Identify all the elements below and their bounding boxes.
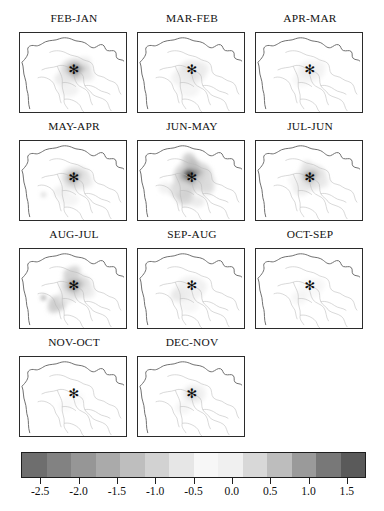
- administrative-boundaries: [274, 51, 357, 112]
- map-panel-aug-jul: AUG-JUL✻: [19, 228, 129, 329]
- colorbar-gradient: [21, 452, 366, 478]
- station-star-marker: ✻: [69, 171, 80, 184]
- colorbar-tick-label-5: 0.0: [225, 485, 240, 498]
- panel-title-sep-aug: SEP-AUG: [137, 228, 247, 241]
- colorbar: -2.5-2.0-1.5-1.0-0.50.00.51.01.5: [21, 452, 366, 508]
- colorbar-band-4: [120, 453, 145, 477]
- colorbar-band-1: [47, 453, 72, 477]
- colorbar-tick-label-3: -1.0: [146, 485, 164, 498]
- colorbar-tick-label-7: 1.0: [301, 485, 316, 498]
- administrative-boundaries: [156, 375, 239, 436]
- map-area-may-apr: ✻: [19, 140, 127, 221]
- map-area-feb-jan: ✻: [19, 32, 127, 113]
- map-area-jul-jun: ✻: [255, 140, 363, 221]
- panel-title-oct-sep: OCT-SEP: [255, 228, 365, 241]
- map-panel-feb-jan: FEB-JAN✻: [19, 12, 129, 113]
- map-area-mar-feb: ✻: [137, 32, 245, 113]
- colorbar-band-13: [341, 453, 366, 477]
- station-star-marker: ✻: [187, 63, 198, 76]
- panel-title-jul-jun: JUL-JUN: [255, 120, 365, 133]
- map-panel-nov-oct: NOV-OCT✻: [19, 336, 129, 437]
- panel-title-dec-nov: DEC-NOV: [137, 336, 247, 349]
- colorbar-band-9: [243, 453, 268, 477]
- station-star-marker: ✻: [69, 387, 80, 400]
- colorbar-band-10: [267, 453, 292, 477]
- colorbar-tick-labels: -2.5-2.0-1.5-1.0-0.50.00.51.01.5: [21, 484, 366, 502]
- panel-grid: FEB-JAN✻MAR-FEB✻APR-MAR✻MAY-APR✻JUN-MAY✻…: [0, 0, 384, 445]
- colorbar-tick-label-1: -2.0: [69, 485, 87, 498]
- panel-title-feb-jan: FEB-JAN: [19, 12, 129, 25]
- map-panel-sep-aug: SEP-AUG✻: [137, 228, 247, 329]
- administrative-boundaries: [274, 267, 357, 328]
- panel-title-jun-may: JUN-MAY: [137, 120, 247, 133]
- colorbar-band-2: [71, 453, 96, 477]
- station-star-marker: ✻: [305, 171, 316, 184]
- station-star-marker: ✻: [187, 387, 198, 400]
- administrative-boundaries: [38, 375, 121, 436]
- map-area-dec-nov: ✻: [137, 356, 245, 437]
- colorbar-band-8: [218, 453, 243, 477]
- anomaly-field: [41, 166, 93, 206]
- colorbar-tick-label-4: -0.5: [184, 485, 202, 498]
- colorbar-band-12: [316, 453, 341, 477]
- colorbar-tick-label-8: 1.5: [340, 485, 355, 498]
- map-area-oct-sep: ✻: [255, 248, 363, 329]
- station-star-marker: ✻: [305, 279, 316, 292]
- map-area-aug-jul: ✻: [19, 248, 127, 329]
- station-star-marker: ✻: [187, 171, 198, 184]
- colorbar-band-11: [292, 453, 317, 477]
- map-panel-may-apr: MAY-APR✻: [19, 120, 129, 221]
- map-panel-jun-may: JUN-MAY✻: [137, 120, 247, 221]
- monthly-difference-map-figure: FEB-JAN✻MAR-FEB✻APR-MAR✻MAY-APR✻JUN-MAY✻…: [0, 0, 384, 511]
- map-panel-dec-nov: DEC-NOV✻: [137, 336, 247, 437]
- station-star-marker: ✻: [69, 63, 80, 76]
- station-star-marker: ✻: [305, 63, 316, 76]
- map-area-apr-mar: ✻: [255, 32, 363, 113]
- map-panel-apr-mar: APR-MAR✻: [255, 12, 365, 113]
- map-area-sep-aug: ✻: [137, 248, 245, 329]
- panel-title-mar-feb: MAR-FEB: [137, 12, 247, 25]
- map-area-nov-oct: ✻: [19, 356, 127, 437]
- station-star-marker: ✻: [69, 279, 80, 292]
- colorbar-band-7: [194, 453, 219, 477]
- colorbar-band-3: [96, 453, 121, 477]
- colorbar-tick-label-2: -1.5: [108, 485, 126, 498]
- station-star-marker: ✻: [187, 279, 198, 292]
- panel-title-aug-jul: AUG-JUL: [19, 228, 129, 241]
- panel-title-apr-mar: APR-MAR: [255, 12, 365, 25]
- map-area-jun-may: ✻: [137, 140, 245, 221]
- panel-title-nov-oct: NOV-OCT: [19, 336, 129, 349]
- colorbar-tick-label-0: -2.5: [31, 485, 49, 498]
- panel-title-may-apr: MAY-APR: [19, 120, 129, 133]
- colorbar-band-6: [169, 453, 194, 477]
- colorbar-tick-label-6: 0.5: [263, 485, 278, 498]
- map-panel-jul-jun: JUL-JUN✻: [255, 120, 365, 221]
- map-panel-mar-feb: MAR-FEB✻: [137, 12, 247, 113]
- colorbar-band-0: [22, 453, 47, 477]
- colorbar-band-5: [145, 453, 170, 477]
- map-panel-oct-sep: OCT-SEP✻: [255, 228, 365, 329]
